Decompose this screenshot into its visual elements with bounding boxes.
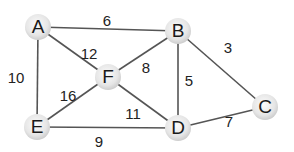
edge-weight-label: 11 — [125, 105, 141, 122]
node-a: A — [25, 14, 51, 40]
edge-a-e — [37, 27, 38, 127]
node-e: E — [24, 114, 50, 140]
edge-weight-label: 3 — [224, 39, 232, 56]
node-label: B — [172, 20, 185, 41]
edge-weight-label: 9 — [95, 133, 103, 150]
edge-e-d — [37, 127, 178, 128]
edge-weight-label: 12 — [81, 45, 98, 62]
edge-weight-label: 8 — [142, 59, 150, 76]
edge-weight-label: 16 — [60, 87, 77, 104]
graph-diagram: 61210853161197 ABCDEF — [0, 0, 294, 152]
node-f: F — [95, 64, 121, 90]
node-label: E — [31, 116, 44, 137]
node-label: F — [102, 66, 114, 87]
nodes-layer: ABCDEF — [24, 14, 278, 141]
edge-weight-label: 5 — [185, 72, 193, 89]
node-label: D — [171, 117, 185, 138]
node-d: D — [165, 115, 191, 141]
node-label: A — [32, 16, 45, 37]
edge-weight-label: 7 — [225, 113, 233, 130]
node-c: C — [252, 94, 278, 120]
edge-weight-label: 6 — [103, 12, 111, 29]
edge-d-c — [178, 107, 265, 128]
edge-weight-label: 10 — [8, 69, 25, 86]
node-label: C — [258, 96, 272, 117]
edge-b-c — [178, 31, 265, 107]
node-b: B — [165, 18, 191, 44]
